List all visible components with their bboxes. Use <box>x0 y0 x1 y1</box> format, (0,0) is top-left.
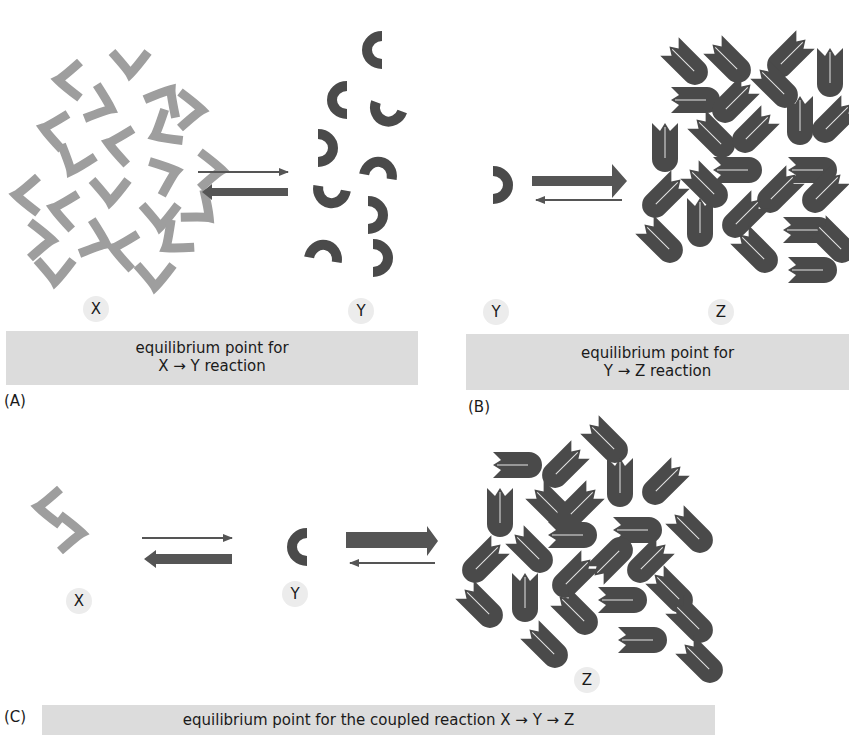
molecule-label-z-c: Z <box>574 667 600 693</box>
panel-c-x-molecules <box>38 489 82 551</box>
molecule-label-y-a: Y <box>348 298 374 324</box>
panel-a-x-molecules <box>16 52 222 287</box>
caption-panel-b-line1: equilibrium point for <box>466 344 849 362</box>
caption-panel-b: equilibrium point for Y → Z reaction <box>466 334 849 390</box>
molecule-label-z-b: Z <box>708 299 734 325</box>
caption-panel-b-line2: Y → Z reaction <box>466 362 849 380</box>
panel-c-z-molecules <box>455 415 728 688</box>
caption-panel-c-line1: equilibrium point for the coupled reacti… <box>42 711 715 729</box>
panel-b-z-molecules <box>635 30 849 283</box>
panel-tag-a: (A) <box>4 392 26 410</box>
panel-b-equilibrium-arrows <box>532 164 627 200</box>
caption-panel-c: equilibrium point for the coupled reacti… <box>42 705 715 735</box>
caption-panel-a-line1: equilibrium point for <box>6 339 418 357</box>
caption-panel-a: equilibrium point for X → Y reaction <box>6 331 418 385</box>
panel-c-yz-arrows <box>346 526 438 563</box>
caption-panel-a-line2: X → Y reaction <box>6 357 418 375</box>
molecule-label-x-a: X <box>83 296 109 322</box>
molecule-label-x-c: X <box>66 588 92 614</box>
panel-b-y-molecule <box>493 171 508 199</box>
panel-a-y-molecules <box>309 36 402 272</box>
panel-tag-c: (C) <box>4 708 26 726</box>
panel-c-y-molecule <box>292 533 307 561</box>
panel-c-xy-arrows <box>142 538 232 568</box>
panel-tag-b: (B) <box>468 398 490 416</box>
molecule-label-y-c: Y <box>282 581 308 607</box>
molecule-label-y-b: Y <box>483 299 509 325</box>
